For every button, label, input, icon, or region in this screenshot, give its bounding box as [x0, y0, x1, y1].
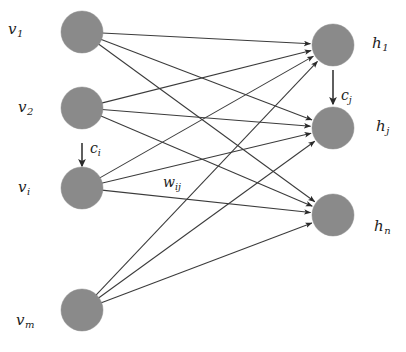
connection-edge [101, 223, 312, 303]
node-label-v1: v1 [8, 22, 23, 37]
node-label-hj: hj [376, 119, 389, 134]
weight-label-wij: wij [163, 175, 181, 189]
node-label-vi: vi [18, 180, 30, 195]
label-base: w [163, 174, 175, 190]
label-subscript: m [25, 319, 34, 330]
bias-label-ci: ci [90, 141, 101, 155]
label-subscript: i [98, 147, 101, 158]
node-label-vm: vm [16, 313, 34, 328]
connection-edge [102, 110, 311, 127]
connection-edge [100, 116, 312, 206]
connection-edge [101, 50, 311, 103]
unit-node-h1[interactable] [312, 24, 354, 66]
unit-node-hj[interactable] [312, 107, 354, 149]
rbm-diagram: v1 v2 vi vm h1 hj hn ci cj wij [0, 0, 406, 352]
label-base: c [341, 87, 349, 103]
label-subscript: j [349, 94, 352, 105]
connection-edges [96, 33, 318, 303]
label-base: h [374, 217, 384, 235]
label-subscript: ij [175, 181, 181, 192]
label-subscript: j [386, 125, 389, 136]
unit-nodes [61, 11, 354, 331]
label-subscript: 2 [27, 106, 33, 117]
unit-node-v1[interactable] [61, 11, 103, 53]
connection-edge [99, 56, 313, 178]
bias-label-cj: cj [341, 88, 352, 102]
label-base: h [376, 117, 386, 135]
label-base: v [18, 98, 26, 116]
label-base: v [16, 311, 24, 329]
unit-node-v2[interactable] [61, 87, 103, 129]
label-subscript: 1 [17, 28, 23, 39]
node-label-v2: v2 [18, 100, 33, 115]
unit-node-hn[interactable] [312, 194, 354, 236]
node-label-hn: hn [374, 219, 390, 234]
label-base: v [18, 178, 26, 196]
unit-node-vi[interactable] [61, 167, 103, 209]
diagram-canvas [0, 0, 406, 352]
node-label-h1: h1 [372, 36, 388, 51]
connection-edge [102, 190, 311, 212]
label-subscript: i [27, 186, 30, 197]
connection-edge [98, 141, 315, 298]
unit-node-vm[interactable] [61, 289, 103, 331]
label-base: h [372, 34, 382, 52]
label-base: c [90, 140, 98, 156]
connection-edge [101, 39, 312, 120]
label-subscript: 1 [382, 42, 388, 53]
connection-edge [102, 33, 311, 44]
label-base: v [8, 20, 16, 38]
label-subscript: n [384, 225, 390, 236]
